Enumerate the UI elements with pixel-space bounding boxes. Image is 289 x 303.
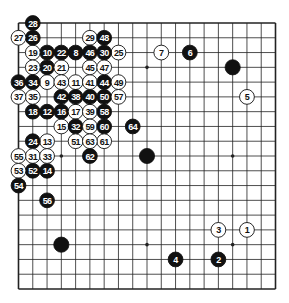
star-point xyxy=(60,154,64,158)
move-number: 18 xyxy=(28,107,37,117)
move-number: 59 xyxy=(85,122,94,132)
move-number: 6 xyxy=(188,48,193,58)
move-number: 36 xyxy=(14,78,23,88)
move-number: 40 xyxy=(85,92,94,102)
move-stone-29: 29 xyxy=(82,30,97,45)
move-stone-25: 25 xyxy=(111,45,126,60)
move-stone-47: 47 xyxy=(97,60,112,75)
move-number: 60 xyxy=(100,122,109,132)
move-stone-55: 55 xyxy=(11,149,26,164)
move-number: 51 xyxy=(71,137,80,147)
move-number: 49 xyxy=(114,78,123,88)
move-stone-6: 6 xyxy=(182,45,197,60)
move-number: 21 xyxy=(57,63,66,73)
move-number: 10 xyxy=(43,48,52,58)
move-number: 17 xyxy=(71,107,80,117)
move-stone-54: 54 xyxy=(11,178,26,193)
black-stone xyxy=(54,237,69,252)
move-number: 1 xyxy=(245,225,250,235)
move-number: 29 xyxy=(85,33,94,43)
move-stone-14: 14 xyxy=(40,163,55,178)
move-number: 48 xyxy=(100,33,109,43)
move-stone-19: 19 xyxy=(25,45,40,60)
move-number: 23 xyxy=(28,63,37,73)
move-number: 50 xyxy=(100,92,109,102)
move-number: 31 xyxy=(28,152,37,162)
move-stone-35: 35 xyxy=(25,89,40,104)
move-stone-22: 22 xyxy=(54,45,69,60)
black-stone xyxy=(139,148,154,163)
move-stone-32: 32 xyxy=(68,119,83,134)
move-number: 13 xyxy=(43,137,52,147)
move-number: 28 xyxy=(28,19,37,29)
move-number: 38 xyxy=(71,92,80,102)
black-stone xyxy=(225,60,240,75)
move-stone-31: 31 xyxy=(25,149,40,164)
move-number: 26 xyxy=(28,33,37,43)
move-number: 19 xyxy=(28,48,37,58)
move-number: 16 xyxy=(57,107,66,117)
move-stone-46: 46 xyxy=(82,45,97,60)
move-number: 58 xyxy=(100,107,109,117)
move-number: 8 xyxy=(73,48,78,58)
move-number: 9 xyxy=(45,78,50,88)
move-number: 22 xyxy=(57,48,66,58)
move-number: 11 xyxy=(71,78,80,88)
move-number: 39 xyxy=(85,107,94,117)
move-number: 61 xyxy=(100,137,109,147)
move-stone-36: 36 xyxy=(11,75,26,90)
move-number: 15 xyxy=(57,122,66,132)
move-stone-37: 37 xyxy=(11,89,26,104)
move-number: 12 xyxy=(43,107,52,117)
move-stone-26: 26 xyxy=(25,30,40,45)
move-number: 4 xyxy=(173,255,178,265)
move-number: 35 xyxy=(28,92,37,102)
move-number: 33 xyxy=(43,152,52,162)
move-stone-61: 61 xyxy=(97,134,112,149)
move-number: 54 xyxy=(14,181,23,191)
move-stone-10: 10 xyxy=(40,45,55,60)
move-number: 57 xyxy=(114,92,123,102)
move-stone-27: 27 xyxy=(11,30,26,45)
go-board: 1234567891011121314151617181920212223242… xyxy=(0,0,289,303)
move-stone-40: 40 xyxy=(82,89,97,104)
move-number: 47 xyxy=(100,63,109,73)
move-number: 30 xyxy=(100,48,109,58)
move-stone-59: 59 xyxy=(82,119,97,134)
move-number: 52 xyxy=(28,166,37,176)
move-number: 53 xyxy=(14,166,23,176)
move-number: 41 xyxy=(85,78,94,88)
move-stone-23: 23 xyxy=(25,60,40,75)
go-board-diagram: 1234567891011121314151617181920212223242… xyxy=(0,0,289,303)
move-stone-33: 33 xyxy=(40,149,55,164)
star-point xyxy=(231,243,235,247)
move-stone-62: 62 xyxy=(82,149,97,164)
move-stone-60: 60 xyxy=(97,119,112,134)
move-number: 63 xyxy=(85,137,94,147)
star-point xyxy=(231,154,235,158)
move-stone-48: 48 xyxy=(97,30,112,45)
move-number: 2 xyxy=(216,255,221,265)
move-stone-3: 3 xyxy=(211,222,226,237)
move-number: 34 xyxy=(28,78,37,88)
move-stone-7: 7 xyxy=(154,45,169,60)
move-number: 20 xyxy=(43,63,52,73)
move-stone-53: 53 xyxy=(11,163,26,178)
move-stone-43: 43 xyxy=(54,75,69,90)
move-stone-56: 56 xyxy=(40,193,55,208)
move-number: 7 xyxy=(159,48,164,58)
move-number: 55 xyxy=(14,152,23,162)
move-stone-2: 2 xyxy=(211,252,226,267)
move-stone-20: 20 xyxy=(40,60,55,75)
move-number: 24 xyxy=(28,137,37,147)
move-stone-30: 30 xyxy=(97,45,112,60)
move-number: 62 xyxy=(85,152,94,162)
move-stone-63: 63 xyxy=(82,134,97,149)
move-stone-17: 17 xyxy=(68,104,83,119)
move-stone-41: 41 xyxy=(82,75,97,90)
move-number: 44 xyxy=(100,78,109,88)
move-number: 42 xyxy=(57,92,66,102)
move-stone-45: 45 xyxy=(82,60,97,75)
move-stone-58: 58 xyxy=(97,104,112,119)
move-stone-18: 18 xyxy=(25,104,40,119)
